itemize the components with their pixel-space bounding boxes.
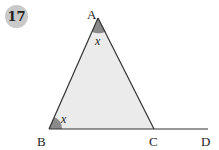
vertex-label-d: D — [201, 134, 210, 149]
angle-label-a: x — [94, 34, 101, 48]
triangle-diagram: A B C D x x — [0, 0, 219, 150]
angle-label-b: x — [60, 112, 67, 126]
vertex-label-a: A — [87, 7, 97, 22]
vertex-label-c: C — [149, 134, 158, 149]
vertex-label-b: B — [37, 134, 46, 149]
